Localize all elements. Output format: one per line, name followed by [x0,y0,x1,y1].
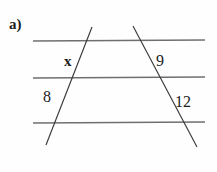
figure-background [0,0,217,172]
segment-label-12: 12 [175,94,191,110]
geometry-figure: a) x 8 9 12 [0,0,217,172]
figure-canvas [0,0,217,172]
segment-label-8: 8 [43,89,51,105]
segment-label-9: 9 [156,53,164,69]
segment-label-x: x [64,54,72,69]
problem-part-label: a) [9,17,22,32]
